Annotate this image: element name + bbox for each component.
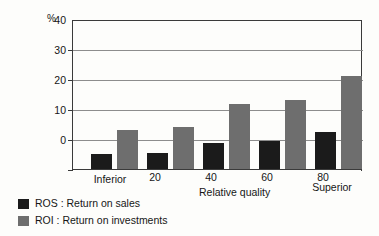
plot-area: [72, 20, 362, 170]
x-tick-label-20: 20: [143, 172, 167, 183]
legend-swatch-ros-icon: [18, 199, 29, 209]
bar-ros-inferior: [91, 154, 112, 169]
bar-ros-40: [203, 143, 224, 169]
gridline-40: [73, 50, 363, 51]
chart-legend: ROS : Return on sales ROI : Return on in…: [18, 196, 167, 230]
y-tick-mark-0: [68, 170, 73, 171]
y-tick-label-10: 10: [54, 105, 66, 116]
gridline-20: [73, 110, 363, 111]
bar-roi-inferior: [117, 130, 138, 169]
legend-label-roi: ROI : Return on investments: [35, 215, 167, 226]
legend-item-ros: ROS : Return on sales: [18, 196, 167, 211]
bar-chart-figure: % 40 30 20 10 0: [0, 0, 379, 236]
y-tick-label-0: 0: [60, 135, 66, 146]
x-tick-label-inferior: Inferior: [85, 174, 135, 185]
y-tick-label-40: 40: [54, 15, 66, 26]
bar-ros-20: [147, 153, 168, 170]
y-tick-mark-20: [68, 110, 73, 111]
y-axis-tick-labels: 40 30 20 10 0: [46, 20, 66, 170]
y-tick-mark-30: [68, 80, 73, 81]
legend-label-ros: ROS : Return on sales: [35, 198, 140, 209]
x-tick-label-60: 60: [255, 172, 279, 183]
legend-item-roi: ROI : Return on investments: [18, 213, 167, 228]
x-axis-title: Relative quality: [199, 186, 270, 198]
y-tick-label-30: 30: [54, 45, 66, 56]
x-tick-label-40: 40: [199, 172, 223, 183]
y-tick-label-20: 20: [54, 75, 66, 86]
bar-roi-20: [173, 127, 194, 169]
bar-roi-40: [229, 104, 250, 169]
bar-roi-60: [285, 100, 306, 169]
gridline-30: [73, 80, 363, 81]
y-tick-mark-10: [68, 140, 73, 141]
bar-roi-80: [341, 76, 362, 169]
x-tick-label-superior: Superior: [305, 182, 359, 193]
y-tick-mark-40: [68, 50, 73, 51]
legend-swatch-roi-icon: [18, 216, 29, 226]
bar-ros-60: [259, 141, 280, 169]
bar-ros-80: [315, 132, 336, 169]
